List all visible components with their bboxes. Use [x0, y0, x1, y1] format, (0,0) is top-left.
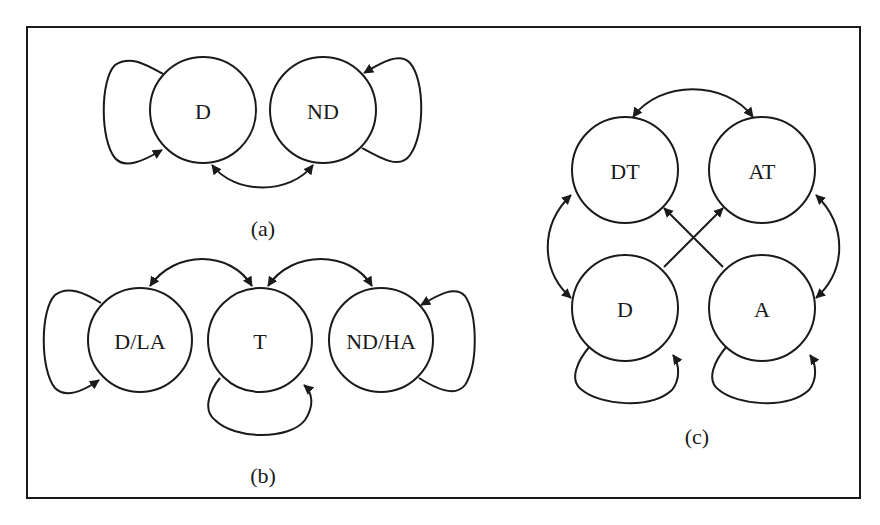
bidirectional-edge-dt-at: [633, 89, 753, 117]
state-label: A: [754, 297, 770, 322]
bidirectional-edge-t-ndha: [268, 259, 372, 286]
diagram-c: DT AT D A (c): [548, 89, 840, 448]
state-node-t: T: [208, 288, 312, 392]
diagram-a: D ND (a): [104, 57, 422, 241]
diagram-b: D/LA T ND/HA (b): [44, 259, 475, 488]
state-label: AT: [749, 159, 776, 184]
state-node-at: AT: [709, 117, 815, 223]
bidirectional-edge-d-nd: [212, 165, 313, 188]
state-node-nd-ha: ND/HA: [329, 288, 433, 392]
bidirectional-edge-dt-d: [548, 195, 571, 298]
state-label: DT: [610, 159, 640, 184]
state-label: D: [617, 297, 633, 322]
state-label: ND/HA: [346, 329, 416, 354]
state-node-d: D: [150, 57, 256, 163]
state-diagram-figure: D ND (a) D/LA T ND/HA (b): [0, 0, 880, 525]
state-label: ND: [307, 99, 339, 124]
state-node-nd: ND: [270, 57, 376, 163]
state-node-dt: DT: [572, 117, 678, 223]
state-label: D: [195, 99, 211, 124]
bidirectional-edge-at-a: [816, 195, 839, 298]
state-node-d-la: D/LA: [88, 288, 192, 392]
state-node-d-c: D: [572, 255, 678, 361]
caption-c: (c): [685, 424, 709, 449]
caption-b: (b): [250, 463, 276, 488]
bidirectional-edge-dla-t: [150, 259, 252, 286]
state-label: D/LA: [114, 329, 165, 354]
state-node-a: A: [709, 255, 815, 361]
caption-a: (a): [251, 216, 275, 241]
state-label: T: [253, 329, 267, 354]
